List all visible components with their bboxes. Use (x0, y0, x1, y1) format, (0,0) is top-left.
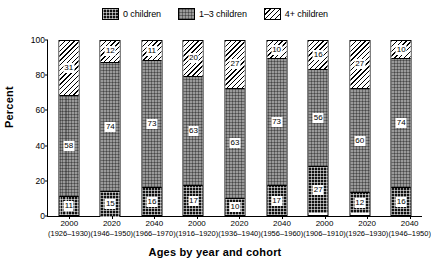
x-axis-tick-cohort: (1926–1930) (346, 229, 389, 239)
bar-segment-value: 16 (396, 197, 407, 207)
x-axis-tick-cohort: (1906–1910) (303, 229, 346, 239)
x-axis-tick-cohort: (1966–1970) (133, 229, 176, 239)
bar-segment: 20 (184, 41, 203, 76)
x-axis-tick: 2020(1926–1930) (346, 219, 389, 243)
x-axis-tick-year: 2040 (388, 219, 431, 229)
bar-segment: 11 (59, 196, 78, 215)
bar-segment-value: 74 (105, 122, 116, 132)
y-axis-title: Percent (3, 86, 15, 128)
bar-segment: 74 (392, 58, 411, 187)
stacked-bar[interactable]: 276310 (225, 40, 246, 216)
bar-slot: 276310 (214, 40, 256, 216)
legend-entry-1-3-children: 1–3 children (178, 8, 247, 20)
x-axis-ticks: 2000(1926–1930)2020(1946–1950)2040(1966–… (48, 219, 422, 243)
stacked-bar[interactable]: 107416 (391, 40, 412, 216)
x-axis-tick: 2000(1906–1910) (303, 219, 346, 243)
bar-segment-value: 15 (105, 199, 116, 209)
x-axis-tick-year: 2020 (91, 219, 134, 229)
x-axis-tick: 2020(1936–1940) (218, 219, 261, 243)
bar-segment: 27 (226, 41, 245, 88)
x-axis-tick-mark (410, 216, 411, 219)
chart-legend: 0 children 1–3 children 4+ children (0, 8, 430, 20)
x-axis-tick-mark (197, 216, 198, 219)
legend-swatch-4-plus-children (264, 8, 281, 20)
stacked-bar[interactable]: 276012 (349, 40, 370, 216)
x-axis-tick: 2000(1926–1930) (48, 219, 91, 243)
bar-segment-value: 63 (188, 126, 199, 136)
x-axis-tick-mark (154, 216, 155, 219)
bar-segment-value: 74 (396, 118, 407, 128)
bar-segment: 73 (142, 60, 161, 187)
bar-group: 3158111274151173162063172763101073171656… (48, 40, 422, 216)
bar-slot: 107317 (256, 40, 298, 216)
bar-segment-value: 10 (396, 45, 407, 55)
x-axis-tick-mark (239, 216, 240, 219)
bar-segment: 58 (59, 95, 78, 196)
legend-entry-4-plus-children: 4+ children (264, 8, 328, 20)
bar-segment-value: 60 (354, 136, 365, 146)
bar-slot: 117316 (131, 40, 173, 216)
bar-segment: 10 (267, 41, 286, 58)
x-axis-tick-year: 2040 (133, 219, 176, 229)
x-axis-tick-cohort: (1926–1930) (48, 229, 91, 239)
bar-segment: 27 (350, 41, 369, 88)
bar-segment: 60 (350, 88, 369, 192)
bar-segment-value: 27 (313, 185, 324, 195)
bar-segment-value: 16 (146, 197, 157, 207)
x-axis-tick: 2040(1966–1970) (133, 219, 176, 243)
bar-segment-value: 11 (147, 46, 157, 56)
bar-segment: 16 (392, 187, 411, 215)
x-axis-tick: 2040(1956–1960) (261, 219, 304, 243)
bar-segment-value: 73 (271, 117, 282, 127)
x-axis-tick-year: 2020 (346, 219, 389, 229)
bar-segment: 56 (309, 69, 328, 166)
stacked-bar[interactable]: 206317 (183, 40, 204, 216)
plot-area: 100806040200 315811127415117316206317276… (48, 40, 422, 216)
bar-segment-value: 63 (230, 138, 241, 148)
stacked-bar[interactable]: 315811 (58, 40, 79, 216)
bar-segment: 17 (267, 185, 286, 215)
bar-segment-value: 17 (271, 196, 282, 206)
bar-segment: 10 (226, 198, 245, 215)
bar-segment: 16 (142, 187, 161, 215)
x-axis-tick: 2020(1946–1950) (91, 219, 134, 243)
stacked-bar[interactable]: 107317 (266, 40, 287, 216)
bar-segment: 63 (184, 76, 203, 186)
bar-segment: 11 (142, 41, 161, 60)
legend-swatch-1-3-children (178, 8, 195, 20)
bar-segment-value: 58 (63, 141, 74, 151)
bar-slot: 276012 (339, 40, 381, 216)
bar-segment-value: 12 (354, 198, 365, 208)
legend-label-4-plus-children: 4+ children (285, 10, 328, 19)
bar-segment: 17 (184, 185, 203, 215)
bar-slot: 107416 (381, 40, 423, 216)
x-axis-tick-mark (282, 216, 283, 219)
x-axis-tick: 2000(1916–1920) (176, 219, 219, 243)
bar-segment: 10 (392, 41, 411, 58)
x-axis-tick-cohort: (1946–1950) (91, 229, 134, 239)
bar-slot: 165627 (297, 40, 339, 216)
stacked-bar[interactable]: 117316 (141, 40, 162, 216)
bar-segment-value: 31 (63, 63, 74, 73)
x-axis-tick-year: 2000 (48, 219, 91, 229)
bar-segment: 63 (226, 88, 245, 198)
bar-segment-value: 73 (146, 119, 157, 129)
bar-segment-value: 11 (64, 201, 74, 211)
bar-slot: 127415 (90, 40, 132, 216)
stacked-bar[interactable]: 127415 (100, 40, 121, 216)
x-axis-tick-mark (367, 216, 368, 219)
bar-segment-value: 27 (230, 59, 241, 69)
bar-segment: 31 (59, 41, 78, 95)
x-axis-title: Ages by year and cohort (0, 246, 430, 258)
bar-segment-value: 10 (230, 202, 241, 212)
bar-segment-value: 10 (271, 45, 282, 55)
bar-segment: 73 (267, 58, 286, 185)
x-axis-tick-cohort: (1936–1940) (218, 229, 261, 239)
x-axis-tick-cohort: (1956–1960) (261, 229, 304, 239)
x-axis-tick-year: 2000 (176, 219, 219, 229)
x-axis-tick-year: 2020 (218, 219, 261, 229)
stacked-bar[interactable]: 165627 (308, 40, 329, 216)
x-axis-tick-cohort: (1946–1950) (388, 229, 431, 239)
bar-segment: 12 (350, 192, 369, 213)
